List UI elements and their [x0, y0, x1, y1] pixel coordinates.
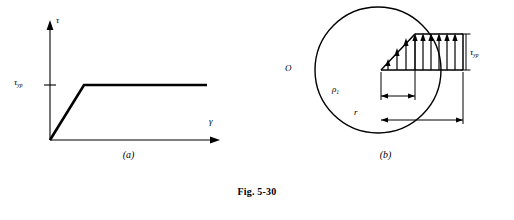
tau-axis	[47, 20, 54, 140]
figure-5-30: τ γ τyp (a)	[0, 0, 514, 220]
tau-yp-stress-label: τyp	[470, 48, 479, 57]
tau-axis-label: τ	[56, 16, 59, 25]
tau-yp-tick-label-subscript: yp	[17, 82, 22, 88]
rho1-dimension-label: ρ1	[332, 85, 339, 94]
gamma-axis-label: γ	[209, 117, 213, 126]
gamma-axis	[50, 137, 220, 144]
panel-b-cross-section-diagram: O τyp ρ1 r (b)	[257, 0, 514, 180]
rho1-dimension	[381, 36, 415, 100]
stress-strain-curve	[50, 85, 207, 140]
subcaption-a: (a)	[0, 150, 257, 160]
center-point-label: O	[285, 64, 292, 73]
r-dimension	[381, 72, 463, 124]
r-dimension-label: r	[354, 108, 358, 117]
stress-arrows	[385, 33, 457, 70]
rho1-label-subscript: 1	[336, 89, 339, 95]
tau-yp-tick-label: τyp	[14, 78, 23, 87]
subcaption-b: (b)	[257, 150, 514, 160]
tau-yp-stress-label-subscript: yp	[473, 52, 478, 58]
figure-caption: Fig. 5-30	[0, 186, 514, 197]
panel-a-stress-strain-diagram: τ γ τyp (a)	[0, 0, 257, 180]
